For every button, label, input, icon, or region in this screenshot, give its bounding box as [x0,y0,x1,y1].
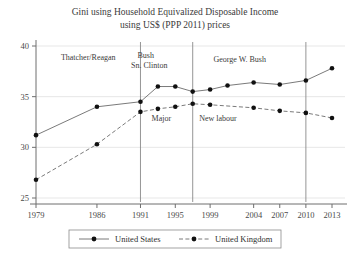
annotations-group: Thatcher/ReaganBushSn. ClintonGeorge W. … [61,51,266,123]
data-point-united-kingdom-1986 [95,142,100,147]
data-point-united-states-2010 [304,78,309,83]
data-point-united-states-1979 [34,133,39,138]
y-tick-label-30: 30 [21,142,30,152]
data-point-united-states-1999 [208,87,213,92]
data-point-united-states-2013 [330,66,335,71]
annotation-thatcher-reagan: Thatcher/Reagan [61,53,116,62]
gini-line-chart: Gini using Household Equivalized Disposa… [0,0,350,262]
chart-title-line-2: using US$ (PPP 2011) prices [120,20,230,31]
data-point-united-states-1986 [95,105,100,110]
data-point-united-kingdom-1999 [208,102,213,107]
chart-title-line-1: Gini using Household Equivalized Disposa… [72,7,279,17]
x-tick-label-1995: 1995 [167,210,184,220]
annotation-major: Major [152,114,172,123]
data-point-united-states-1995 [173,84,178,89]
x-tick-label-1986: 1986 [88,210,105,220]
data-point-united-states-2001 [225,83,230,88]
data-point-united-states-1993 [156,84,161,89]
data-series-group [36,68,332,179]
legend-marker-united-states [92,237,97,242]
data-point-united-kingdom-2010 [304,111,309,116]
data-point-united-kingdom-2007 [277,109,282,114]
y-axis-ticks-group: 25303540 [21,41,37,203]
y-tick-label-35: 35 [21,92,30,102]
gridlines-group [36,46,345,198]
data-point-united-kingdom-1991 [138,110,143,115]
annotation-sn-clinton: Sn. Clinton [131,61,167,70]
series-line-united-kingdom [36,104,332,180]
data-point-united-kingdom-1979 [34,177,39,182]
chart-container: Gini using Household Equivalized Disposa… [0,0,350,262]
axes-group [30,40,347,204]
x-tick-label-2004: 2004 [245,210,263,220]
x-tick-label-2010: 2010 [297,210,314,220]
x-axis-ticks-group: 197919861991199519992004200720102013 [28,204,341,220]
data-point-united-kingdom-1997 [190,101,195,106]
data-point-united-states-1991 [138,99,143,104]
annotation-george-w-bush: George W. Bush [213,55,266,64]
data-point-united-kingdom-1993 [156,107,161,112]
chart-legend[interactable]: United StatesUnited Kingdom [69,230,281,248]
legend-marker-united-kingdom [192,237,197,242]
data-point-united-states-2007 [277,82,282,87]
legend-label-united-states[interactable]: United States [115,234,161,244]
annotation-new-labour: New labour [199,114,237,123]
data-point-united-kingdom-1995 [173,105,178,110]
y-tick-label-40: 40 [21,41,30,51]
legend-label-united-kingdom[interactable]: United Kingdom [215,234,273,244]
series-line-united-states [36,68,332,135]
x-tick-label-1979: 1979 [28,210,45,220]
data-point-united-kingdom-2004 [251,106,256,111]
data-point-united-states-2004 [251,80,256,85]
data-point-united-kingdom-2013 [330,116,335,121]
x-tick-label-2007: 2007 [271,210,288,220]
annotation-bush: Bush [137,51,153,60]
x-tick-label-2013: 2013 [324,210,341,220]
x-tick-label-1999: 1999 [202,210,219,220]
x-tick-label-1991: 1991 [132,210,149,220]
y-tick-label-25: 25 [21,193,30,203]
data-point-united-states-1997 [190,89,195,94]
